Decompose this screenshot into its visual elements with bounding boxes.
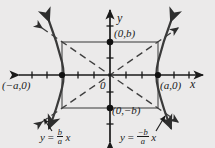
point-vertex-left (59, 72, 65, 78)
origin-label: 0 (100, 80, 106, 91)
leader-arrow-right-asymptote (156, 116, 165, 131)
hyperbola-figure: y x 0 (0,b) (0,−b) (−a,0) (a,0) y = b a … (0, 0, 215, 148)
eq-right-fraction: −b a (137, 128, 149, 147)
eq-left-fraction: b a (57, 128, 63, 147)
eq-left-variable: x (66, 132, 71, 143)
eq-right-equals: = (127, 132, 134, 143)
label-vertex-left: (−a,0) (2, 80, 31, 91)
x-axis-label: x (190, 78, 195, 90)
label-co-vertex-top: (0,b) (114, 28, 135, 39)
y-axis-label: y (117, 12, 122, 24)
eq-left-denominator: a (57, 137, 63, 146)
eq-right-denominator: a (137, 137, 149, 146)
point-vertex-right (155, 72, 161, 78)
eq-left-equals: = (47, 132, 54, 143)
eq-left-lhs: y (40, 132, 45, 143)
label-vertex-right: (a,0) (160, 80, 181, 91)
point-co-vertex-top (107, 39, 114, 46)
eq-right-variable: x (151, 132, 156, 143)
eq-right-lhs: y (120, 132, 125, 143)
asymptote-negative-equation: y = −b a x (120, 128, 156, 147)
label-co-vertex-bottom: (0,−b) (112, 105, 141, 116)
figure-canvas (0, 0, 215, 148)
asymptote-positive-equation: y = b a x (40, 128, 70, 147)
